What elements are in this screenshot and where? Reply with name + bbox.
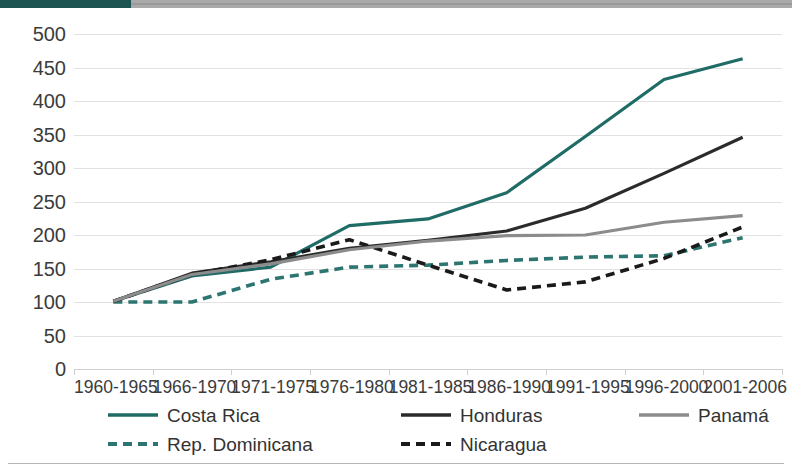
x-tick-label-1981-1985: 1981-1985 — [389, 375, 468, 399]
chart-page: 500450400350300250200150100500 1960-1965… — [0, 0, 792, 475]
legend-item-honduras[interactable]: Honduras — [400, 402, 542, 428]
y-tick-label-0: 0 — [0, 359, 66, 379]
legend-line-swatch — [638, 408, 690, 422]
legend-item-label: Rep. Dominicana — [167, 435, 313, 454]
y-tick-label-200: 200 — [0, 225, 66, 245]
footer-rule — [8, 463, 784, 464]
y-tick-label-400: 400 — [0, 91, 66, 111]
legend-line-swatch — [107, 437, 159, 451]
series-line-panam — [113, 216, 742, 302]
legend-line-swatch — [400, 408, 452, 422]
chart-legend: Costa RicaHondurasPanamáRep. DominicanaN… — [0, 402, 792, 460]
x-tick-end — [782, 369, 783, 375]
y-tick-label-500: 500 — [0, 24, 66, 44]
x-axis-labels: 1960-19651966-19701971-19751976-19801981… — [74, 369, 782, 399]
legend-item-nicaragua[interactable]: Nicaragua — [400, 431, 547, 457]
legend-item-label: Costa Rica — [167, 406, 260, 425]
y-tick-label-250: 250 — [0, 192, 66, 212]
y-tick-label-300: 300 — [0, 158, 66, 178]
y-tick-label-350: 350 — [0, 125, 66, 145]
series-lines — [74, 34, 782, 369]
y-tick-label-450: 450 — [0, 58, 66, 78]
legend-item-label: Panamá — [698, 406, 769, 425]
legend-item-rep-dominicana[interactable]: Rep. Dominicana — [107, 431, 313, 457]
x-tick-label-1971-1975: 1971-1975 — [231, 375, 310, 399]
x-tick-label-1966-1970: 1966-1970 — [153, 375, 232, 399]
x-tick-label-1986-1990: 1986-1990 — [467, 375, 546, 399]
x-tick-label-1976-1980: 1976-1980 — [310, 375, 389, 399]
header-accent-bar — [0, 0, 131, 8]
legend-item-costa-rica[interactable]: Costa Rica — [107, 402, 260, 428]
x-tick-label-2001-2006: 2001-2006 — [703, 375, 782, 399]
y-tick-label-150: 150 — [0, 259, 66, 279]
legend-item-label: Nicaragua — [460, 435, 547, 454]
y-axis-labels: 500450400350300250200150100500 — [0, 34, 66, 369]
x-tick-label-1991-1995: 1991-1995 — [546, 375, 625, 399]
legend-item-panam[interactable]: Panamá — [638, 402, 769, 428]
header-rule — [0, 0, 792, 8]
y-tick-label-50: 50 — [0, 326, 66, 346]
x-tick-label-1996-2000: 1996-2000 — [625, 375, 704, 399]
x-tick-label-1960-1965: 1960-1965 — [74, 375, 153, 399]
header-thin-rule — [131, 3, 792, 5]
legend-item-label: Honduras — [460, 406, 542, 425]
y-tick-label-100: 100 — [0, 292, 66, 312]
legend-line-swatch — [107, 408, 159, 422]
legend-line-swatch — [400, 437, 452, 451]
